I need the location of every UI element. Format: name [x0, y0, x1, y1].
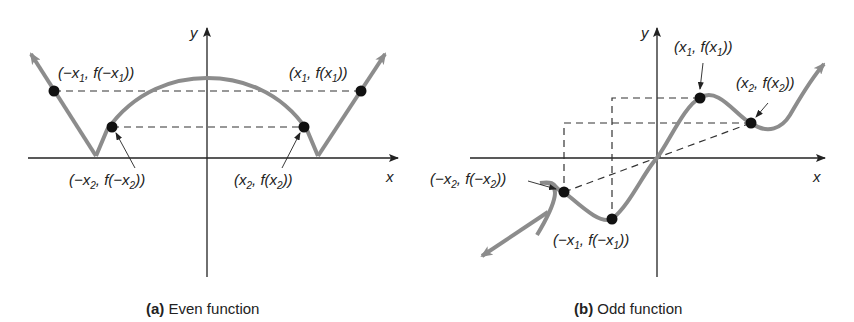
label-neg-x2: (−x2, f(−x2)): [430, 170, 506, 190]
label-x1: (x1, f(x1)): [289, 64, 348, 84]
label-neg-x2: (−x2, f(−x2)): [69, 171, 145, 191]
pointer-arrow-x1: [700, 63, 703, 89]
point-neg-x1: [49, 86, 60, 97]
label-x1: (x1, f(x1)): [674, 38, 733, 58]
panel-even-function: y x (−x1, f(−x1)) (x1, f(x1)) (−x2, f(−x…: [28, 24, 398, 317]
point-x2: [746, 118, 757, 129]
x-axis-label: x: [812, 168, 821, 185]
y-axis-label: y: [189, 24, 199, 41]
point-x1: [695, 93, 706, 104]
label-neg-x1: (−x1, f(−x1)): [58, 64, 134, 84]
pointer-arrow-neg-x2: [116, 133, 135, 168]
label-x2: (x2, f(x2)): [234, 171, 293, 191]
point-x2: [299, 122, 310, 133]
caption-even-function: (a) Even function: [146, 300, 259, 317]
point-neg-x2: [559, 187, 570, 198]
caption-odd-function: (b) Odd function: [574, 300, 682, 317]
x-axis-label: x: [385, 168, 394, 185]
y-axis-label: y: [640, 24, 650, 41]
figure-canvas: y x (−x1, f(−x1)) (x1, f(x1)) (−x2, f(−x…: [0, 0, 854, 322]
point-neg-x1: [607, 214, 618, 225]
label-neg-x1: (−x1, f(−x1)): [553, 231, 629, 251]
panel-odd-function: y x (x1, f(x1)) (x2, f(x2)) (−x2, f(−x2)…: [430, 24, 825, 317]
pointer-arrow-x2: [282, 133, 300, 168]
point-neg-x2: [107, 122, 118, 133]
label-x2: (x2, f(x2)): [736, 74, 795, 94]
pointer-arrow-x2: [756, 103, 768, 117]
point-x1: [356, 86, 367, 97]
